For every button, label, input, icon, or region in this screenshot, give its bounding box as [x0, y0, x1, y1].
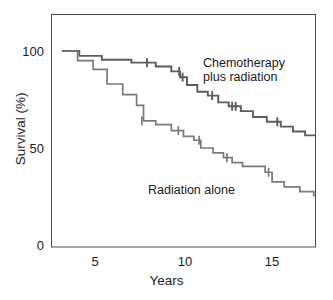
curve-annotation-radiation: Radiation alone: [148, 183, 235, 197]
y-tick-label-100: 100: [10, 45, 44, 58]
x-tick-label-15: 15: [252, 255, 292, 268]
y-tick-label-0: 0: [10, 239, 44, 252]
y-axis-label: Survival (%): [14, 74, 28, 184]
x-axis-label: Years: [0, 274, 333, 288]
survival-chart-figure: 100 50 0 5 10 15 Survival (%) Years Chem…: [0, 0, 333, 300]
x-tick-label-5: 5: [75, 255, 115, 268]
x-tick-label-10: 10: [165, 255, 205, 268]
annotation-line-2: plus radiation: [203, 70, 277, 84]
curve-annotation-chemotherapy: Chemotherapyplus radiation: [203, 56, 285, 84]
annotation-line-1: Chemotherapy: [203, 56, 285, 70]
